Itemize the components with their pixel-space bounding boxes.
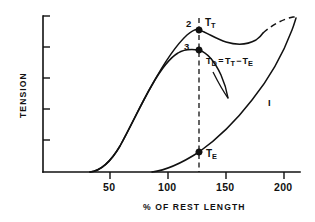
td-eq-tt-main: T <box>225 56 231 66</box>
x-tick-label-150: 150 <box>216 182 234 193</box>
point-tt <box>196 27 202 33</box>
tt-label-sub: T <box>211 21 216 30</box>
te-label: TE <box>206 149 217 159</box>
td-leader-line <box>213 72 228 98</box>
x-tick-label-50: 50 <box>103 182 115 193</box>
curve-2-number-label: 2 <box>186 19 191 29</box>
length-tension-chart: TENSION % OF REST LENGTH 50 100 150 200 … <box>0 0 315 222</box>
x-tick-label-200: 200 <box>274 182 292 193</box>
point-te <box>196 149 202 155</box>
td-eq-td-sub: D <box>212 59 217 68</box>
point-td <box>196 47 202 53</box>
x-axis-title: % OF REST LENGTH <box>143 203 246 212</box>
td-eq-equals: = <box>217 56 225 66</box>
td-eq-tt-sub: T <box>231 59 236 68</box>
curve-2-total-tension <box>90 30 263 172</box>
td-eq-td-main: T <box>206 56 212 66</box>
td-equation: TD=TT−TE <box>206 57 253 66</box>
x-tick-label-100: 100 <box>158 182 176 193</box>
curve-1-number-label: I <box>268 98 271 108</box>
te-label-sub: E <box>212 152 217 161</box>
td-eq-te-sub: E <box>248 59 253 68</box>
y-axis-title: TENSION <box>19 72 28 118</box>
curve-3-number-label: 3 <box>184 42 189 52</box>
tt-label: TT <box>205 18 216 28</box>
